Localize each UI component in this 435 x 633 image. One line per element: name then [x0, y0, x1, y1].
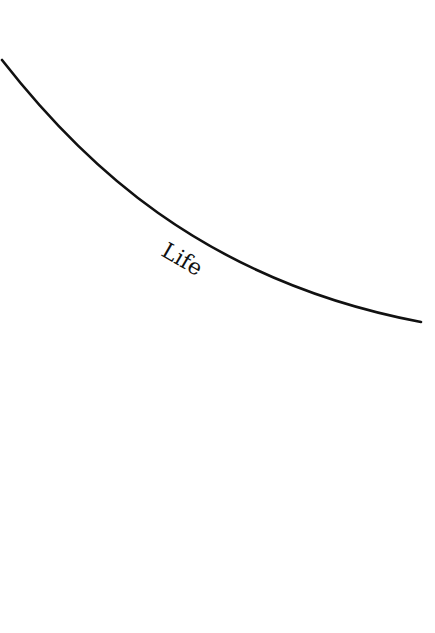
diagram-canvas: Life: [0, 0, 435, 633]
curve-label: Life: [158, 238, 208, 281]
life-curve: [2, 60, 421, 322]
